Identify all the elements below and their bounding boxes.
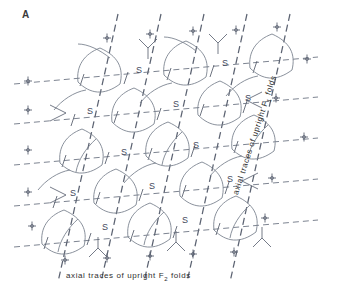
s-marker: S xyxy=(136,65,142,75)
s-marker: S xyxy=(149,181,155,191)
caption-bottom-f2: axial traces of upright F2 folds xyxy=(66,271,191,282)
caption-bottom-text: axial traces of upright F2 folds xyxy=(66,271,191,280)
s-marker: S xyxy=(227,174,233,184)
fold-interference-diagram: .trace{stroke:#5c6372;stroke-width:1.25;… xyxy=(0,0,338,296)
s-marker: S xyxy=(102,222,108,232)
s-marker: S xyxy=(222,58,228,68)
figure-panel: .trace{stroke:#5c6372;stroke-width:1.25;… xyxy=(0,0,338,296)
s-marker: S xyxy=(193,140,199,150)
panel-label: A xyxy=(22,9,30,20)
s-marker: S xyxy=(87,106,93,116)
s-marker: S xyxy=(173,99,179,109)
s-marker: S xyxy=(70,188,76,198)
s-marker: S xyxy=(182,215,188,225)
s-marker: S xyxy=(121,147,127,157)
